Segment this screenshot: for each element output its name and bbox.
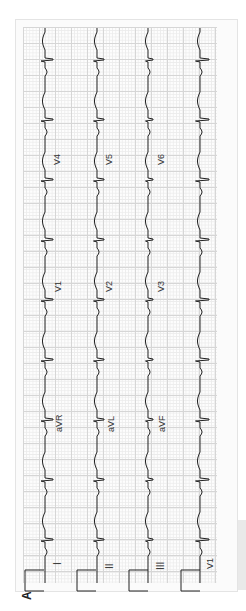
ecg-trace-row-2 [94,28,105,583]
lead-label: I [52,562,63,565]
calibration-pulse-4 [181,570,200,591]
lead-label: V3 [156,281,166,292]
watermark [238,520,246,590]
lead-label: III [155,562,166,570]
lead-label: aVF [157,415,167,432]
calibration-pulse-2 [77,570,96,591]
ecg-trace-row-4 [196,28,210,583]
lead-label: V1 [53,281,63,292]
ecg-traces [0,0,246,611]
ecg-trace-row-1 [41,28,53,583]
lead-label: II [104,563,115,569]
calibration-pulse-1 [25,570,44,591]
lead-label: aVR [54,414,64,432]
ecg-trace-row-3 [146,28,154,583]
lead-label: V1 [205,558,215,569]
lead-label: aVL [106,416,116,432]
panel-label: A [20,591,34,600]
lead-label: V6 [156,154,166,165]
lead-label: V5 [104,154,114,165]
lead-label: V2 [104,281,114,292]
lead-label: V4 [52,154,62,165]
calibration-pulse-3 [129,570,148,591]
